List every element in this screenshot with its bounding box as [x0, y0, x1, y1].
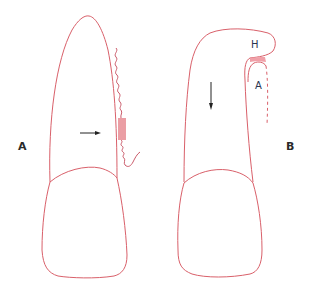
tooth-b-attachment-patch: [250, 57, 266, 62]
diagram-canvas: [0, 0, 311, 287]
tooth-b-arrow-down: [209, 82, 213, 110]
panel-label-a: A: [18, 141, 27, 152]
tooth-b-root-outline: [184, 29, 275, 182]
tooth-b-crown-outline: [178, 170, 262, 277]
tooth-b-dashed-line: [266, 66, 268, 125]
tooth-a-arrow-right: [80, 131, 101, 135]
tooth-a-striped-attachment: [118, 118, 126, 140]
panel-label-b: B: [286, 141, 294, 152]
annotation-h: H: [251, 40, 259, 50]
tooth-a-wavy-fiber-lower: [121, 140, 140, 166]
tooth-b-inner-line: [248, 62, 266, 82]
tooth-a-root-outline: [50, 16, 117, 182]
annotation-a: A: [255, 81, 262, 91]
tooth-a-wavy-fiber-upper: [115, 48, 122, 118]
tooth-a-crown-outline: [42, 167, 127, 278]
